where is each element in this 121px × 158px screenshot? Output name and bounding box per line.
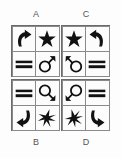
curved-arrow-down-left-icon [14,108,34,128]
panel-d[interactable] [61,79,110,131]
panel-c-cell-bottom-right[interactable] [85,51,110,77]
panel-label-c: C [76,10,96,19]
panel-d-cell-bottom-left[interactable] [62,105,87,131]
panel-b-cell-bottom-left[interactable] [12,105,37,131]
panel-a-cell-top-left[interactable] [12,26,37,52]
double-bar-icon [14,54,34,74]
six-point-star-icon [64,108,84,128]
mars-symbol-down-right-icon [37,83,57,103]
double-bar-icon [14,83,34,103]
panel-c[interactable] [61,25,110,77]
panel-b-cell-bottom-right[interactable] [35,105,60,131]
panel-a-cell-bottom-left[interactable] [12,51,37,77]
panel-label-d: D [76,138,96,147]
panel-a-cell-top-right[interactable] [35,26,60,52]
curved-arrow-up-right-icon [14,29,34,49]
panel-label-b: B [26,138,46,147]
panel-b[interactable] [11,79,60,131]
five-point-star-icon [64,29,84,49]
panel-c-cell-top-right[interactable] [85,26,110,52]
panel-c-cell-top-left[interactable] [62,26,87,52]
curved-arrow-up-left-icon [87,29,107,49]
double-bar-icon [87,83,107,103]
six-point-star-icon [37,108,57,128]
curved-arrow-down-right-icon [87,108,107,128]
mars-symbol-down-left-icon [64,83,84,103]
panel-b-cell-top-left[interactable] [12,80,37,106]
panel-d-cell-top-left[interactable] [62,80,87,106]
mars-symbol-up-left-icon [64,54,84,74]
five-point-star-icon [37,29,57,49]
panel-a[interactable] [11,25,60,77]
panel-a-cell-bottom-right[interactable] [35,51,60,77]
panel-c-cell-bottom-left[interactable] [62,51,87,77]
panel-d-cell-bottom-right[interactable] [85,105,110,131]
mars-symbol-up-right-icon [37,54,57,74]
panel-b-cell-top-right[interactable] [35,80,60,106]
panel-d-cell-top-right[interactable] [85,80,110,106]
double-bar-icon [87,54,107,74]
figure-canvas: A C B D [0,0,121,158]
panel-label-a: A [26,10,46,19]
